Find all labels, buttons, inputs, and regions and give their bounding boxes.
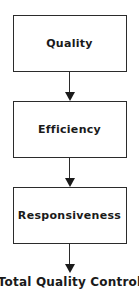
connector-quality-to-efficiency bbox=[65, 72, 75, 101]
node-quality-label: Quality bbox=[46, 37, 93, 50]
node-responsiveness-label: Responsiveness bbox=[18, 209, 121, 222]
flowchart-diagram: Quality Efficiency Responsiveness Total … bbox=[0, 0, 139, 308]
node-efficiency-label: Efficiency bbox=[38, 123, 101, 136]
result-caption: Total Quality Control bbox=[0, 275, 139, 289]
connector-line bbox=[69, 244, 70, 265]
node-responsiveness: Responsiveness bbox=[13, 187, 127, 244]
arrow-down-icon bbox=[65, 178, 75, 187]
connector-responsiveness-to-result bbox=[65, 244, 75, 273]
arrow-down-icon bbox=[65, 264, 75, 273]
arrow-down-icon bbox=[65, 92, 75, 101]
connector-line bbox=[69, 158, 70, 179]
node-quality: Quality bbox=[13, 15, 127, 72]
connector-efficiency-to-responsiveness bbox=[65, 158, 75, 187]
node-efficiency: Efficiency bbox=[13, 101, 127, 158]
connector-line bbox=[69, 72, 70, 93]
